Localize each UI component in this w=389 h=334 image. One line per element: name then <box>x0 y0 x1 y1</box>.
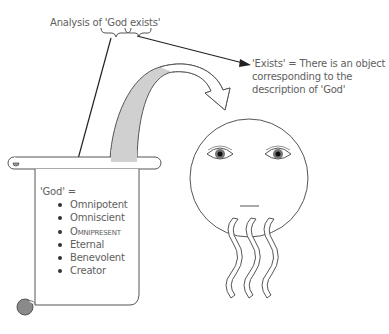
attribute-item: Omnipotent <box>58 198 128 211</box>
attribute-item: Omnipresent <box>58 225 128 238</box>
diagram-canvas <box>0 0 389 334</box>
attribute-item: Benevolent <box>58 251 128 264</box>
exists-line-1: 'Exists' = There is an object <box>252 57 385 70</box>
god-face <box>190 119 308 298</box>
curved-arrow-head <box>160 64 230 110</box>
attribute-list: Omnipotent Omniscient Omnipresent Eterna… <box>40 198 128 278</box>
diagram-title: Analysis of 'God exists' <box>50 16 160 29</box>
left-eye-icon <box>207 146 233 159</box>
god-heading: 'God' = <box>40 185 128 198</box>
exists-line-3: description of 'God' <box>252 83 385 96</box>
arrow-exists-to-definition <box>137 36 243 63</box>
attribute-item: Creator <box>58 264 128 277</box>
attribute-item: Omniscient <box>58 211 128 224</box>
right-eye-icon <box>265 146 291 159</box>
exists-definition: 'Exists' = There is an object correspond… <box>252 57 385 96</box>
attribute-item: Eternal <box>58 238 128 251</box>
god-definition: 'God' = Omnipotent Omniscient Omnipresen… <box>40 185 128 278</box>
arrowhead-icon <box>239 59 251 67</box>
exists-line-2: corresponding to the <box>252 70 385 83</box>
